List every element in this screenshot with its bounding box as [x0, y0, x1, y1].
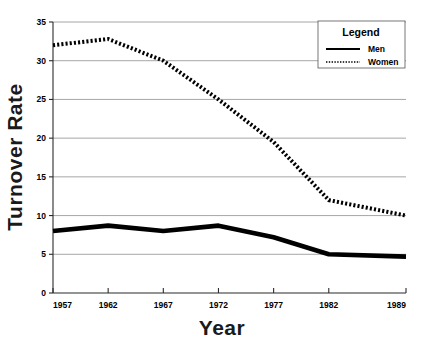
y-axis-title: Turnover Rate — [3, 83, 26, 230]
y-axis-tick-label: 15 — [37, 172, 47, 182]
y-axis-tick-label: 20 — [37, 133, 47, 143]
legend: Legend Men Women — [318, 21, 405, 68]
y-axis-tick-label: 30 — [37, 56, 47, 66]
x-axis-tick-label: 1967 — [154, 300, 173, 310]
x-axis-tick-label: 1972 — [209, 300, 228, 310]
y-axis-tick-label: 5 — [41, 249, 46, 259]
y-axis-tick-label: 25 — [37, 94, 47, 104]
legend-title: Legend — [342, 26, 379, 38]
x-axis-tick-label: 1982 — [319, 300, 338, 310]
chart-container: 05101520253035 1957196219671972197719821… — [0, 0, 423, 342]
x-axis-tick-label: 1989 — [387, 300, 406, 310]
legend-label-men: Men — [368, 44, 385, 54]
x-axis-tick-label: 1957 — [53, 300, 72, 310]
y-axis-tick-label: 0 — [41, 288, 46, 298]
x-axis-title: Year — [199, 316, 245, 339]
x-axis-tick-label: 1962 — [99, 300, 118, 310]
legend-label-women: Women — [368, 57, 399, 67]
x-axis-tick-label: 1977 — [264, 300, 283, 310]
y-axis-tick-label: 35 — [37, 17, 47, 27]
y-axis-tick-label: 10 — [37, 211, 47, 221]
line-chart: 05101520253035 1957196219671972197719821… — [0, 0, 423, 342]
